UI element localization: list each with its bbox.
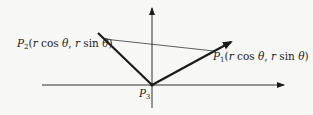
p3-label: P3 bbox=[138, 87, 151, 101]
origin-point bbox=[150, 83, 153, 86]
vector-diagram: P2(r cos θ, r sin θ) P1(r cos θ, r sin θ… bbox=[0, 0, 313, 115]
p1-label: P1(r cos θ, r sin θ) bbox=[212, 50, 309, 64]
p2-p1-segment bbox=[104, 39, 214, 51]
p2-label: P2(r cos θ, r sin θ) bbox=[16, 37, 113, 51]
